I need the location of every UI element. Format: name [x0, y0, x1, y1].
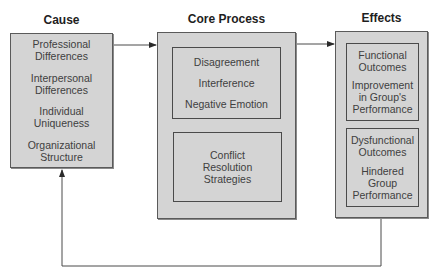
cause-item: Individual Uniqueness — [27, 105, 97, 129]
functional-detail: Improvement in Group's Performance — [347, 79, 419, 115]
cause-box: Professional Differences Interpersonal D… — [10, 33, 113, 168]
core-item: Interference — [198, 77, 254, 89]
core-item: Disagreement — [194, 56, 259, 68]
conflict-resolution-box: Conflict Resolution Strategies — [173, 132, 282, 202]
core-process-heading: Core Process — [157, 12, 296, 26]
cause-item: Organizational Structure — [20, 139, 104, 163]
core-item: Negative Emotion — [185, 98, 268, 110]
cause-list: Professional Differences Interpersonal D… — [11, 38, 112, 163]
dysfunctional-title: Dysfunctional Outcomes — [347, 134, 419, 158]
functional-outcomes-box: Functional Outcomes Improvement in Group… — [346, 43, 419, 121]
effects-heading: Effects — [335, 11, 428, 25]
dysfunctional-detail: Hindered Group Performance — [348, 165, 418, 201]
core-process-box: Disagreement Interference Negative Emoti… — [157, 32, 296, 219]
core-conflict-elements-box: Disagreement Interference Negative Emoti… — [172, 47, 281, 119]
effects-box: Functional Outcomes Improvement in Group… — [335, 31, 428, 218]
functional-title: Functional Outcomes — [351, 49, 415, 73]
core-item: Conflict Resolution Strategies — [197, 149, 259, 185]
dysfunctional-outcomes-box: Dysfunctional Outcomes Hindered Group Pe… — [346, 128, 419, 207]
cause-item: Professional Differences — [22, 38, 102, 62]
cause-item: Interpersonal Differences — [22, 72, 102, 96]
cause-heading: Cause — [10, 13, 113, 27]
